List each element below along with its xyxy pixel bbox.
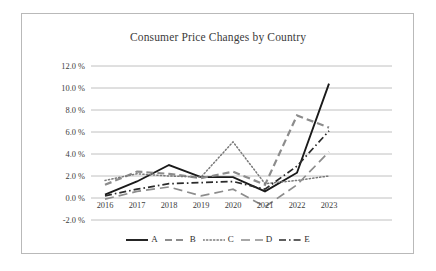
legend-swatch-d-icon [241,235,263,244]
x-tick-label: 2021 [257,201,274,210]
series-line-a [105,84,329,195]
y-tick-label: 0.0 % [30,194,85,203]
legend-entry-e[interactable]: E [279,235,310,244]
legend-entry-d[interactable]: D [241,235,273,244]
y-tick-label: 4.0 % [30,150,85,159]
series-lines-group [105,84,329,207]
legend-swatch-a-icon [126,235,148,244]
legend-swatch-b-icon [165,235,187,244]
legend-swatch-c-icon [203,235,225,244]
x-tick-label: 2016 [97,201,114,210]
chart-legend: ABCDE [0,235,436,244]
y-tick-label: 8.0 % [30,106,85,115]
x-tick-label: 2023 [321,201,338,210]
legend-entry-b[interactable]: B [165,235,196,244]
legend-entry-a[interactable]: A [126,235,158,244]
legend-label: A [151,235,158,244]
chart-figure: Consumer Price Changes by Country 12.0 %… [0,0,436,271]
gridlines-group [91,66,392,220]
x-tick-label: 2019 [193,201,210,210]
y-tick-label: 2.0 % [30,172,85,181]
x-tick-label: 2020 [225,201,242,210]
x-tick-label: 2022 [289,201,306,210]
y-tick-label: 12.0 % [30,62,85,71]
legend-label: E [304,235,310,244]
x-tick-label: 2018 [161,201,178,210]
y-tick-label: -2.0 % [30,216,85,225]
legend-label: D [266,235,273,244]
x-tick-label: 2017 [129,201,146,210]
y-tick-label: 6.0 % [30,128,85,137]
legend-swatch-e-icon [279,235,301,244]
legend-label: B [190,235,196,244]
legend-entry-c[interactable]: C [203,235,234,244]
y-tick-label: 10.0 % [30,84,85,93]
legend-label: C [228,235,234,244]
